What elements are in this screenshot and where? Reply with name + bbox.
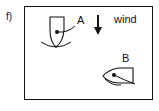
wind-label: wind <box>114 14 137 25</box>
boat-a-label: A <box>77 15 84 26</box>
boat-b-label: B <box>122 53 129 64</box>
boat-a-icon <box>41 17 75 47</box>
wind-arrow-icon <box>94 15 102 35</box>
boat-b-icon <box>103 68 135 85</box>
